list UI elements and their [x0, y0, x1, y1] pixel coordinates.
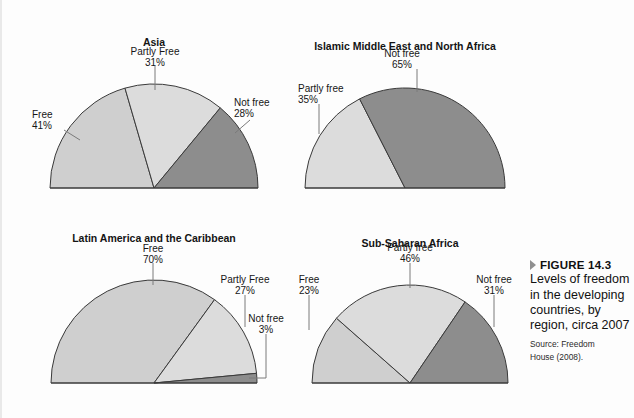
slice-label-name: Partly Free	[131, 46, 180, 57]
triangle-right-icon	[530, 260, 536, 270]
slice-label: Free70%	[143, 243, 164, 265]
figure-container: AsiaFree41%Partly Free31%Not free28%Isla…	[0, 0, 634, 418]
figure-source-note: Source: Freedom House (2008).	[530, 338, 632, 362]
figure-number-row: FIGURE 14.3	[530, 258, 632, 272]
slice-label-name: Free	[299, 274, 320, 285]
chart-4: Sub-Saharan AfricaFree23%Partly free46%N…	[299, 237, 513, 383]
slice-label-name: Not free	[234, 97, 270, 108]
slice-label-value: 3%	[259, 324, 274, 335]
slice-label: Partly free46%	[387, 242, 433, 264]
slice-label: Partly free35%	[298, 83, 344, 105]
slice-label: Not free28%	[234, 97, 270, 119]
chart-2: Islamic Middle East and North AfricaPart…	[298, 40, 505, 188]
slice-label: Free41%	[32, 109, 53, 131]
slice-label-name: Free	[143, 243, 164, 254]
slice-label-name: Not free	[248, 313, 284, 324]
slice-label-value: 27%	[235, 285, 255, 296]
slice-label-value: 31%	[484, 285, 504, 296]
slice-label: Not free31%	[476, 274, 512, 296]
slice-label: Not free65%	[384, 48, 420, 70]
slice-label-value: 23%	[299, 285, 319, 296]
slice-label-name: Partly free	[387, 242, 433, 253]
slice-label-value: 70%	[143, 254, 163, 265]
slice-label-value: 31%	[145, 57, 165, 68]
slice-label-value: 65%	[392, 59, 412, 70]
slice-label-value: 46%	[400, 253, 420, 264]
chart-3: Latin America and the CaribbeanFree70%Pa…	[51, 232, 284, 383]
slice-label-value: 35%	[298, 94, 318, 105]
slice-label: Free23%	[299, 274, 320, 296]
slice-label-value: 41%	[32, 120, 52, 131]
slice-label-name: Partly free	[298, 83, 344, 94]
slice-label-name: Not free	[476, 274, 512, 285]
figure-number-label: FIGURE 14.3	[540, 258, 611, 272]
figure-caption-panel: FIGURE 14.3 Levels of freedom in the dev…	[530, 258, 632, 363]
slice-label: Not free3%	[248, 313, 284, 335]
slice-label-name: Free	[32, 109, 53, 120]
source-line-1: Source: Freedom	[530, 338, 632, 350]
source-line-2: House (2008).	[530, 351, 632, 363]
slice-label-value: 28%	[234, 108, 254, 119]
figure-caption-text: Levels of freedom in the developing coun…	[530, 272, 632, 333]
chart-1: AsiaFree41%Partly Free31%Not free28%	[32, 36, 270, 188]
slice-label-name: Partly Free	[221, 274, 270, 285]
slice-label: Partly Free31%	[131, 46, 180, 68]
slice-label-name: Not free	[384, 48, 420, 59]
slice-label: Partly Free27%	[221, 274, 270, 296]
